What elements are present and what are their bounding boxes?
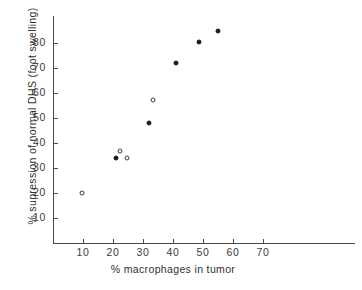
x-tick: [173, 239, 174, 243]
data-point-filled: [174, 60, 179, 65]
y-tick: [54, 168, 58, 169]
x-tick: [143, 239, 144, 243]
x-tick-label: 40: [160, 246, 186, 258]
y-tick: [54, 218, 58, 219]
data-point-filled: [147, 121, 152, 126]
y-tick: [54, 93, 58, 94]
x-tick-label: 10: [70, 246, 96, 258]
data-point-filled: [196, 39, 201, 44]
data-point-open: [79, 191, 84, 196]
x-tick: [113, 239, 114, 243]
scatter-plot-figure: 102030405060708010203040506070 % supress…: [0, 0, 362, 290]
y-tick: [54, 68, 58, 69]
data-point-filled: [114, 155, 119, 160]
x-axis-title: % macrophages in tumor: [53, 263, 293, 275]
y-tick: [54, 143, 58, 144]
y-tick: [54, 43, 58, 44]
y-axis-line: [53, 16, 54, 244]
x-axis-line: [53, 243, 355, 244]
x-tick: [203, 239, 204, 243]
y-tick: [54, 118, 58, 119]
y-axis-title: % supression of normal DHS (foot swellin…: [26, 1, 38, 231]
x-tick-label: 20: [100, 246, 126, 258]
data-point-open: [117, 149, 122, 154]
x-tick-label: 50: [190, 246, 216, 258]
data-point-open: [150, 98, 155, 103]
x-tick: [233, 239, 234, 243]
data-point-filled: [216, 28, 221, 33]
data-point-open: [125, 155, 130, 160]
x-tick-label: 60: [220, 246, 246, 258]
x-tick: [263, 239, 264, 243]
x-tick-label: 70: [250, 246, 276, 258]
y-tick: [54, 193, 58, 194]
x-tick-label: 30: [130, 246, 156, 258]
x-tick: [83, 239, 84, 243]
